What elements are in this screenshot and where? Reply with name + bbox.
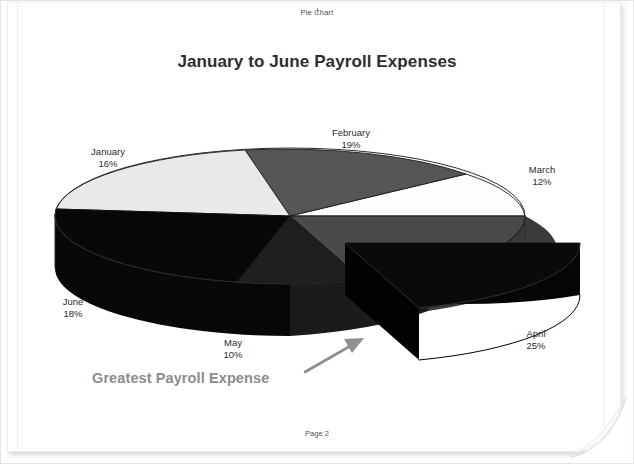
screenshot-page: Pie Chart January to June Payroll Expens… [0, 0, 634, 464]
slice-label-may: May 10% [205, 337, 261, 361]
slice-label-january: January 16% [73, 146, 143, 170]
annotation-greatest-expense: Greatest Payroll Expense [92, 370, 269, 386]
slice-label-january-name: January [73, 146, 143, 158]
slice-label-april: April 25% [506, 328, 566, 352]
slice-label-june: June 18% [46, 296, 100, 320]
slice-label-february: February 19% [312, 127, 390, 151]
page-curl-corner [570, 396, 626, 458]
slice-label-may-name: May [205, 337, 261, 349]
slice-label-june-name: June [46, 296, 100, 308]
pie-chart-graphic [0, 0, 634, 464]
slice-label-april-value: 25% [506, 340, 566, 352]
slice-label-april-name: April [506, 328, 566, 340]
slice-label-march: March 12% [510, 164, 574, 188]
slice-label-february-value: 19% [312, 139, 390, 151]
slice-label-january-value: 16% [73, 158, 143, 170]
slice-label-march-name: March [510, 164, 574, 176]
slice-label-june-value: 18% [46, 308, 100, 320]
slice-label-march-value: 12% [510, 176, 574, 188]
slice-label-may-value: 10% [205, 349, 261, 361]
document-footer: Page 2 [0, 429, 634, 438]
arrow-up-right-icon [305, 338, 364, 372]
slice-label-february-name: February [312, 127, 390, 139]
